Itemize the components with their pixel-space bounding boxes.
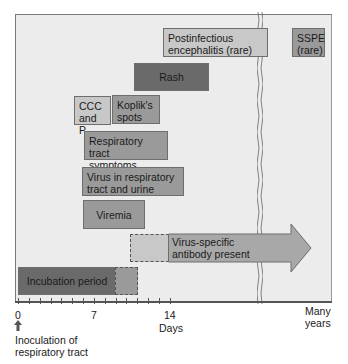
- postinfectious-line1: Postinfectious: [168, 32, 263, 44]
- rash-label: Rash: [159, 71, 184, 83]
- many-years-label: Many years: [305, 305, 331, 329]
- up-arrow-icon: [13, 320, 23, 332]
- antibody-dashed-segment: [130, 234, 169, 262]
- sspe-line1: SSPE: [297, 32, 320, 44]
- koplik-line1: Koplik's: [117, 99, 155, 111]
- x-axis-label: Days: [159, 322, 183, 334]
- many-years-line1: Many: [305, 305, 331, 317]
- incubation-label: Incubation period: [27, 275, 108, 287]
- incubation-period-box: Incubation period: [18, 267, 116, 295]
- sspe-box: SSPE (rare): [292, 28, 325, 57]
- koplik-line2: spots: [117, 111, 155, 123]
- rash-box: Rash: [134, 63, 209, 91]
- inoculation-line1: Inoculation of: [15, 334, 88, 346]
- tick: [83, 298, 84, 304]
- tick-label-14: 14: [164, 309, 176, 321]
- virus-line2: tract and urine: [87, 183, 179, 195]
- tick: [51, 298, 52, 304]
- respiratory-symptoms-box: Respiratory tract symptoms: [84, 131, 168, 160]
- tick-label-7: 7: [91, 309, 97, 321]
- ccc-box: CCC and P: [74, 96, 111, 125]
- tick: [148, 298, 149, 304]
- tick: [159, 298, 160, 304]
- tick: [126, 298, 127, 304]
- koplik-box: Koplik's spots: [112, 95, 160, 124]
- virus-respiratory-box: Virus in respiratory tract and urine: [82, 167, 184, 196]
- viremia-label: Viremia: [96, 209, 131, 221]
- tick: [94, 298, 95, 304]
- tick: [29, 298, 30, 304]
- tick: [40, 298, 41, 304]
- tick: [105, 298, 106, 304]
- viremia-box: Viremia: [83, 200, 145, 229]
- antibody-label: Virus-specific antibody present: [172, 236, 250, 260]
- tick: [61, 298, 62, 304]
- sspe-line2: (rare): [297, 44, 320, 56]
- many-years-line2: years: [305, 317, 331, 329]
- antibody-line1: Virus-specific: [172, 236, 250, 248]
- x-axis: [15, 301, 332, 303]
- tick: [137, 298, 138, 304]
- tick: [18, 298, 19, 304]
- postinfectious-encephalitis-box: Postinfectious encephalitis (rare): [163, 28, 268, 57]
- inoculation-line2: respiratory tract: [15, 346, 88, 358]
- incubation-dashed-segment: [115, 267, 138, 295]
- tick: [72, 298, 73, 304]
- virus-line1: Virus in respiratory: [87, 171, 179, 183]
- resp-line1: Respiratory tract: [89, 135, 163, 159]
- ccc-line1: CCC: [79, 100, 106, 112]
- antibody-line2: antibody present: [172, 248, 250, 260]
- tick: [170, 298, 171, 304]
- tick: [116, 298, 117, 304]
- postinfectious-line2: encephalitis (rare): [168, 44, 263, 56]
- inoculation-note: Inoculation of respiratory tract: [15, 334, 88, 358]
